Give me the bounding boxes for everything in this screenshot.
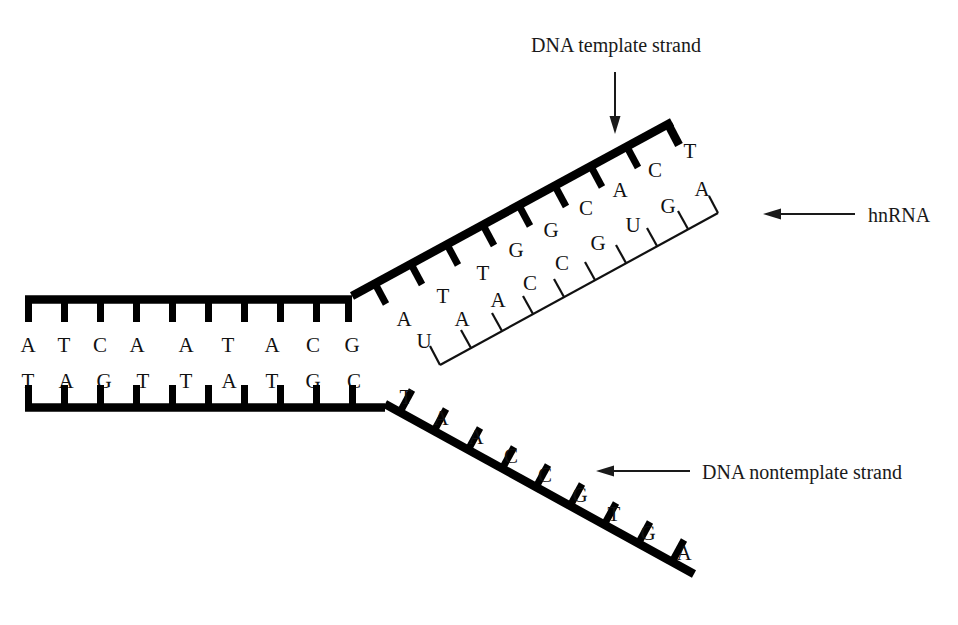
callout-hnrna-label: hnRNA: [868, 204, 931, 226]
nontemplate-arm-bases: T A A C C G T G A: [400, 385, 693, 565]
nontemplate-arm-base: T: [608, 502, 621, 526]
template-arm-base: T: [477, 261, 490, 285]
rna-base: C: [523, 271, 537, 295]
template-arm-base: A: [396, 307, 412, 331]
duplex-top-base: A: [129, 333, 145, 357]
duplex-bottom-base: A: [221, 369, 237, 393]
duplex-top-base: T: [222, 333, 235, 357]
nontemplate-arm-base: T: [400, 385, 413, 409]
rna-base: G: [660, 194, 675, 218]
rna-base: U: [625, 213, 640, 237]
rna-base: C: [555, 251, 569, 275]
duplex-bottom-backbone: [25, 385, 385, 408]
rna-ticks: [461, 211, 688, 348]
transcription-diagram: A T C A A T A C G T A G T T A T G C: [0, 0, 958, 625]
duplex-top-base: T: [58, 333, 71, 357]
template-arm-end-cap: [668, 124, 679, 145]
duplex-top-base: G: [344, 333, 359, 357]
arrow-left-icon: [596, 466, 614, 477]
template-arm-ticks: [375, 147, 638, 304]
nontemplate-arm-base: G: [640, 521, 655, 545]
rna-base: G: [590, 231, 605, 255]
duplex-top-base: C: [306, 333, 320, 357]
duplex-bottom-base: T: [180, 369, 193, 393]
template-arm-backbone: [352, 122, 672, 296]
template-arm-base: C: [579, 196, 593, 220]
rna-backbone: [440, 213, 718, 365]
rna-transcript: [430, 196, 718, 365]
rna-base: A: [490, 288, 506, 312]
template-arm-base: T: [684, 139, 697, 163]
callout-nontemplate-strand: DNA nontemplate strand: [596, 461, 902, 484]
nontemplate-arm-base: A: [468, 425, 484, 449]
duplex-top-base: C: [93, 333, 107, 357]
duplex-bottom-base: T: [266, 369, 279, 393]
duplex-top-base: A: [178, 333, 194, 357]
duplex-bottom-bases: T A G T T A T G C: [22, 369, 361, 393]
callout-template-strand: DNA template strand: [531, 34, 701, 134]
nontemplate-arm-base: G: [572, 483, 587, 507]
nontemplate-arm-base: C: [504, 444, 518, 468]
rna-base: U: [416, 329, 431, 353]
nontemplate-arm-base: A: [676, 541, 692, 565]
rna-base: A: [454, 307, 470, 331]
template-arm-base: T: [437, 284, 450, 308]
template-arm-base: A: [612, 178, 628, 202]
template-arm-base: C: [648, 158, 662, 182]
duplex-top-base: A: [20, 333, 36, 357]
callout-nontemplate-label: DNA nontemplate strand: [702, 461, 902, 484]
nontemplate-arm-base: C: [538, 463, 552, 487]
duplex-top-bases: A T C A A T A C G: [20, 333, 359, 357]
rna-base: A: [694, 177, 710, 201]
template-arm-base: G: [508, 238, 523, 262]
nontemplate-arm-base: A: [433, 406, 449, 430]
template-arm-base: G: [543, 218, 558, 242]
duplex-top-backbone: [25, 299, 352, 322]
arrow-down-icon: [610, 116, 621, 134]
rna-end-cap: [709, 196, 718, 213]
figure-canvas: A T C A A T A C G T A G T T A T G C: [0, 0, 958, 625]
callout-hnrna: hnRNA: [763, 204, 931, 226]
duplex-top-base: A: [264, 333, 280, 357]
arrow-left-icon: [763, 209, 781, 220]
callout-template-label: DNA template strand: [531, 34, 701, 57]
